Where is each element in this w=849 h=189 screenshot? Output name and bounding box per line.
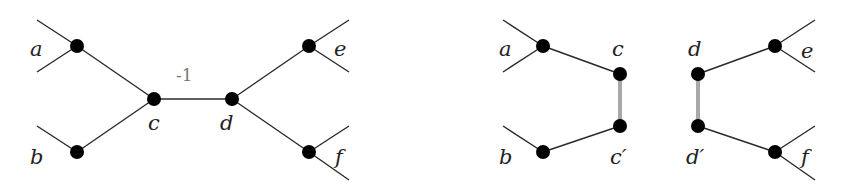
node-a <box>70 39 84 53</box>
node-d <box>225 92 239 106</box>
edge-d-f <box>232 99 309 152</box>
split-tree: a b c c′ d d′ e f <box>499 20 815 180</box>
edge-d-prime-f <box>698 126 775 152</box>
label-f: f <box>333 145 346 169</box>
node-c <box>147 92 161 106</box>
label-e: e <box>334 37 346 61</box>
label-b: b <box>499 145 512 169</box>
node-f <box>768 145 782 159</box>
diagram-canvas: a b c d e f -1 a b c c′ <box>0 0 849 189</box>
node-f <box>302 145 316 159</box>
node-d <box>691 67 705 81</box>
label-c: c <box>612 37 624 61</box>
node-d-prime <box>691 119 705 133</box>
stub-f-upper <box>309 126 349 152</box>
node-e <box>302 39 316 53</box>
label-a: a <box>499 37 512 61</box>
label-d-prime: d′ <box>686 145 704 169</box>
edge-b-c <box>77 99 154 152</box>
node-b <box>70 145 84 159</box>
node-e <box>768 39 782 53</box>
node-c-prime <box>613 119 627 133</box>
stub-a-lower <box>37 46 77 72</box>
stub-f-lower <box>309 152 349 180</box>
node-c <box>613 67 627 81</box>
label-f: f <box>799 145 812 169</box>
edge-b-c-prime <box>543 126 620 152</box>
node-a <box>536 39 550 53</box>
label-c-prime: c′ <box>610 145 627 169</box>
label-a: a <box>30 37 43 61</box>
edge-d-e <box>698 46 775 74</box>
label-c: c <box>148 111 160 135</box>
original-tree: a b c d e f -1 <box>30 20 349 180</box>
edge-a-c <box>543 46 620 74</box>
edge-a-c <box>77 46 154 99</box>
label-b: b <box>30 145 43 169</box>
edge-d-e <box>232 46 309 99</box>
stub-f-upper <box>775 126 815 152</box>
stub-f-lower <box>775 152 815 180</box>
node-b <box>536 145 550 159</box>
label-d: d <box>688 37 701 61</box>
edge-weight-label: -1 <box>176 65 193 85</box>
label-e: e <box>801 39 813 63</box>
stub-a-upper <box>37 20 77 46</box>
label-d: d <box>220 111 233 135</box>
